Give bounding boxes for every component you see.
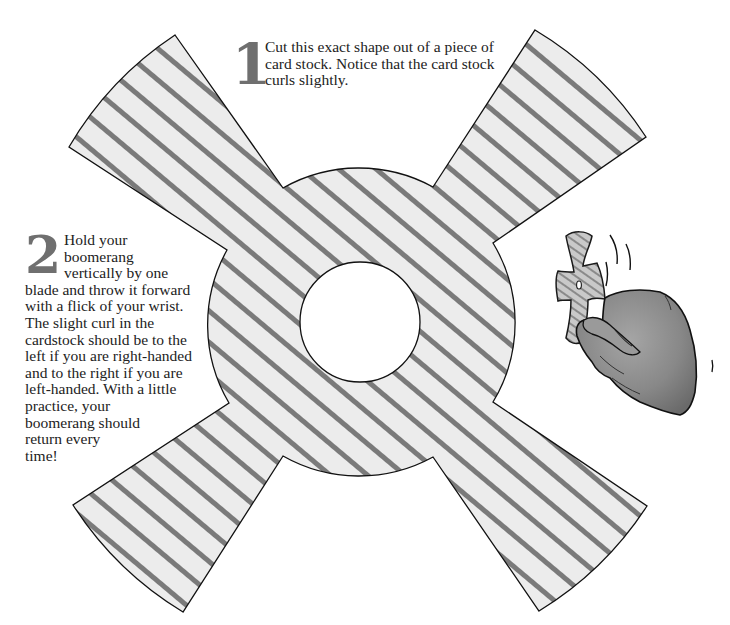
step-2-line: left-handed. With a little bbox=[25, 381, 185, 398]
step-2-line: left if you are right-handed bbox=[25, 348, 185, 365]
motion-lines-icon bbox=[610, 235, 617, 264]
step-2-line: blade and throw it forward bbox=[25, 282, 185, 299]
step-2-line: and to the right if you are bbox=[25, 365, 185, 382]
step-1-number: 1 bbox=[232, 41, 260, 87]
step-1-instructions: 1 Cut this exact shape out of a piece of… bbox=[232, 39, 502, 89]
step-1-text: Cut this exact shape out of a piece of c… bbox=[265, 38, 494, 88]
step-2-instructions: 2 Hold your boomerang vertically by one … bbox=[25, 232, 185, 464]
step-2-line: practice, your bbox=[25, 398, 185, 415]
step-2-line: time! bbox=[25, 448, 185, 465]
step-2-line: boomerang should bbox=[25, 415, 185, 432]
step-2-line: with a flick of your wrist. bbox=[25, 298, 185, 315]
step-2-number: 2 bbox=[25, 234, 59, 276]
step-2-line: return every bbox=[25, 431, 185, 448]
step-2-line: The slight curl in the bbox=[25, 315, 185, 332]
center-hole bbox=[300, 262, 420, 382]
hand-throwing-illustration bbox=[556, 232, 713, 415]
step-2-line: cardstock should be to the bbox=[25, 332, 185, 349]
